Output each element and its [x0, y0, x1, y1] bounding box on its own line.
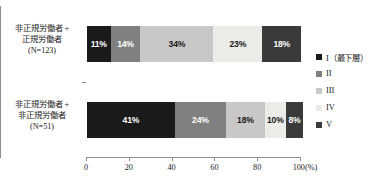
category-label-0-line-0: 非正規労働者 +	[2, 23, 82, 34]
bar-segment-1-2: 18%	[226, 102, 265, 138]
legend-label-1: II	[326, 69, 331, 78]
legend-label-3: IV	[326, 103, 335, 112]
legend-swatch-icon-0	[316, 54, 322, 60]
x-tick-3	[214, 157, 215, 161]
bar-segment-0-2: 34%	[140, 26, 213, 62]
bar-segment-0-4: 18%	[262, 26, 301, 62]
legend-item-3[interactable]: IV	[316, 99, 368, 116]
legend-item-2[interactable]: III	[316, 82, 368, 99]
category-label-1-line-0: 非正規労働者 +	[2, 99, 82, 110]
bar-segment-value-0-2: 34%	[169, 39, 186, 49]
bar-segment-value-1-2: 18%	[237, 115, 254, 125]
bar-segment-0-0: 11%	[87, 26, 111, 62]
legend-label-4: V	[326, 120, 332, 129]
category-label-0-line-2: (N=123)	[2, 45, 82, 56]
x-tick-label-1: 20	[125, 163, 133, 172]
bar-row-1: 41%24%18%10%8%	[87, 102, 303, 138]
bar-segment-value-0-4: 18%	[273, 39, 290, 49]
y-axis-tick	[82, 82, 86, 83]
bar-segment-1-1: 24%	[175, 102, 226, 138]
legend-label-0: I（最下層）	[326, 51, 368, 63]
x-tick-2	[172, 157, 173, 161]
x-tick-label-3: 60	[210, 163, 218, 172]
category-label-1: 非正規労働者 + 非正規労働者 (N=51)	[2, 99, 82, 133]
bar-segment-value-0-3: 23%	[230, 39, 247, 49]
bar-segment-1-0: 41%	[87, 102, 175, 138]
x-tick-0	[86, 157, 87, 161]
category-label-1-line-2: (N=51)	[2, 121, 82, 132]
x-tick-label-2: 40	[168, 163, 176, 172]
chart-legend: I（最下層）IIIIIIVV	[316, 48, 368, 133]
x-tick-4	[257, 157, 258, 161]
category-label-0: 非正規労働者 + 正規労働者 (N=123)	[2, 23, 82, 57]
bar-row-0: 11%14%34%23%18%	[87, 26, 301, 62]
legend-swatch-icon-4	[316, 122, 322, 128]
bar-segment-value-1-3: 10%	[267, 115, 284, 125]
x-tick-label-0: 0	[84, 163, 88, 172]
bar-segment-1-4: 8%	[286, 102, 303, 138]
legend-swatch-icon-3	[316, 105, 322, 111]
legend-item-1[interactable]: II	[316, 65, 368, 82]
legend-item-4[interactable]: V	[316, 116, 368, 133]
legend-swatch-icon-1	[316, 71, 322, 77]
bar-segment-1-3: 10%	[265, 102, 286, 138]
bar-segment-0-3: 23%	[213, 26, 262, 62]
category-label-0-line-1: 正規労働者	[2, 34, 82, 45]
stacked-bar-chart: 非正規労働者 + 正規労働者 (N=123) 非正規労働者 + 非正規労働者 (…	[0, 0, 389, 185]
bar-segment-0-1: 14%	[111, 26, 141, 62]
bar-segment-value-1-0: 41%	[123, 115, 140, 125]
y-axis-line	[0, 6, 1, 158]
legend-label-2: III	[326, 86, 334, 95]
legend-item-0[interactable]: I（最下層）	[316, 48, 368, 65]
category-label-1-line-1: 非正規労働者	[2, 110, 82, 121]
bar-segment-value-1-4: 8%	[289, 115, 301, 125]
x-tick-label-4: 80	[253, 163, 261, 172]
bar-segment-value-0-0: 11%	[91, 39, 107, 49]
bar-segment-value-1-1: 24%	[192, 115, 209, 125]
x-axis-line	[86, 157, 301, 158]
x-tick-5	[300, 157, 301, 161]
x-tick-1	[129, 157, 130, 161]
legend-swatch-icon-2	[316, 88, 322, 94]
x-tick-label-5: 100(%)	[293, 163, 318, 172]
bar-segment-value-0-1: 14%	[117, 39, 134, 49]
